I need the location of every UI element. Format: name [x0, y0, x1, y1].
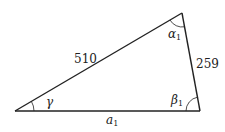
angle-arc-alpha1: [170, 20, 185, 27]
angle-label-alpha1: α1: [168, 27, 181, 42]
triangle-diagram: 510 259 a1 α1 β1 γ: [0, 0, 225, 132]
angle-label-beta1: β1: [170, 93, 183, 108]
side-label-259: 259: [196, 57, 219, 71]
triangle-svg: 510 259 a1 α1 β1 γ: [0, 0, 225, 132]
side-label-a1: a1: [106, 113, 118, 128]
angle-arc-gamma: [31, 101, 34, 111]
angle-label-gamma: γ: [46, 95, 54, 109]
angle-arc-beta1: [186, 97, 198, 111]
side-label-510: 510: [74, 52, 97, 66]
side-left: [15, 13, 182, 111]
